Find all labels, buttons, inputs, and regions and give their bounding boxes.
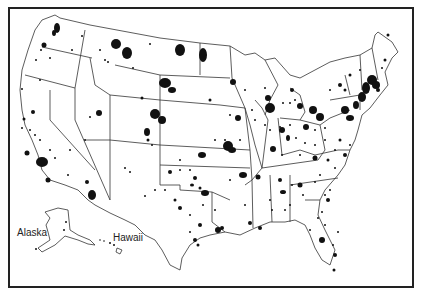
alaska-label: Alaska	[17, 227, 47, 238]
state-borders	[20, 15, 398, 270]
us-map	[0, 0, 421, 294]
hawaii-label: Hawaii	[113, 232, 143, 243]
